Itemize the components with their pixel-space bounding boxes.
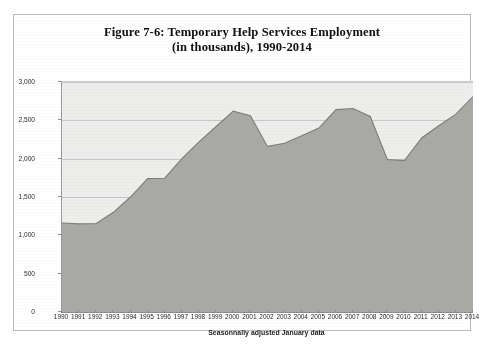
x-tick-mark-2003 xyxy=(284,310,285,313)
x-tick-mark-2000 xyxy=(232,310,233,313)
x-tick-label-2004: 2004 xyxy=(294,313,308,320)
x-tick-label-2001: 2001 xyxy=(242,313,256,320)
x-tick-mark-1997 xyxy=(181,310,182,313)
y-tick-mark-3000 xyxy=(58,81,61,82)
x-tick-mark-1992 xyxy=(95,310,96,313)
x-tick-mark-1993 xyxy=(112,310,113,313)
figure-title-line-1: Figure 7-6: Temporary Help Services Empl… xyxy=(104,25,380,39)
x-tick-label-1992: 1992 xyxy=(88,313,102,320)
x-tick-label-1990: 1990 xyxy=(54,313,68,320)
x-tick-mark-2014 xyxy=(472,310,473,313)
y-tick-label-2000: 2,000 xyxy=(0,154,35,161)
y-tick-mark-1000 xyxy=(58,234,61,235)
y-tick-label-1500: 1,500 xyxy=(0,193,35,200)
x-tick-label-1994: 1994 xyxy=(122,313,136,320)
x-axis: 1990199119921993199419951996199719981999… xyxy=(61,313,472,327)
y-tick-label-0: 0 xyxy=(0,308,35,315)
y-tick-label-1000: 1,000 xyxy=(0,231,35,238)
figure-frame: Figure 7-6: Temporary Help Services Empl… xyxy=(13,14,471,331)
x-tick-mark-2008 xyxy=(369,310,370,313)
area-series-temp-help-employment xyxy=(62,82,473,312)
x-axis-caption: Seasonnally adjusted January data xyxy=(61,329,472,336)
x-tick-label-2008: 2008 xyxy=(362,313,376,320)
x-tick-label-2003: 2003 xyxy=(276,313,290,320)
y-tick-label-3000: 3,000 xyxy=(0,78,35,85)
x-tick-mark-2012 xyxy=(438,310,439,313)
x-tick-label-2002: 2002 xyxy=(259,313,273,320)
y-tick-mark-1500 xyxy=(58,196,61,197)
x-tick-label-1996: 1996 xyxy=(157,313,171,320)
y-tick-mark-2500 xyxy=(58,119,61,120)
x-tick-label-2012: 2012 xyxy=(431,313,445,320)
x-tick-label-2005: 2005 xyxy=(311,313,325,320)
y-tick-mark-500 xyxy=(58,273,61,274)
x-tick-mark-1995 xyxy=(147,310,148,313)
x-tick-label-1998: 1998 xyxy=(191,313,205,320)
x-tick-mark-2006 xyxy=(335,310,336,313)
x-tick-mark-1996 xyxy=(164,310,165,313)
x-tick-label-1997: 1997 xyxy=(174,313,188,320)
x-tick-label-2010: 2010 xyxy=(396,313,410,320)
x-tick-label-2013: 2013 xyxy=(448,313,462,320)
x-tick-label-2007: 2007 xyxy=(345,313,359,320)
x-tick-mark-2010 xyxy=(404,310,405,313)
x-tick-mark-1994 xyxy=(130,310,131,313)
x-tick-label-1995: 1995 xyxy=(139,313,153,320)
plot-area xyxy=(61,81,473,312)
x-tick-mark-1998 xyxy=(198,310,199,313)
x-tick-label-1993: 1993 xyxy=(105,313,119,320)
x-tick-label-2009: 2009 xyxy=(379,313,393,320)
y-tick-label-500: 500 xyxy=(0,269,35,276)
x-tick-mark-2005 xyxy=(318,310,319,313)
area-fill-path xyxy=(62,97,473,312)
x-tick-label-2014: 2014 xyxy=(465,313,479,320)
x-tick-mark-1990 xyxy=(61,310,62,313)
y-axis xyxy=(14,15,61,330)
x-tick-mark-2001 xyxy=(249,310,250,313)
x-tick-label-2000: 2000 xyxy=(225,313,239,320)
x-tick-mark-2009 xyxy=(386,310,387,313)
x-tick-mark-1991 xyxy=(78,310,79,313)
y-tick-mark-2000 xyxy=(58,158,61,159)
x-tick-mark-2011 xyxy=(421,310,422,313)
y-tick-mark-0 xyxy=(58,311,61,312)
x-tick-mark-2002 xyxy=(267,310,268,313)
x-tick-label-2006: 2006 xyxy=(328,313,342,320)
x-tick-label-1999: 1999 xyxy=(208,313,222,320)
x-tick-mark-1999 xyxy=(215,310,216,313)
x-tick-label-2011: 2011 xyxy=(414,313,428,320)
x-tick-label-1991: 1991 xyxy=(71,313,85,320)
x-tick-mark-2007 xyxy=(352,310,353,313)
x-tick-mark-2004 xyxy=(301,310,302,313)
y-tick-label-2500: 2,500 xyxy=(0,116,35,123)
figure-title-line-2: (in thousands), 1990-2014 xyxy=(14,40,470,55)
x-tick-mark-2013 xyxy=(455,310,456,313)
figure-title: Figure 7-6: Temporary Help Services Empl… xyxy=(14,25,470,55)
